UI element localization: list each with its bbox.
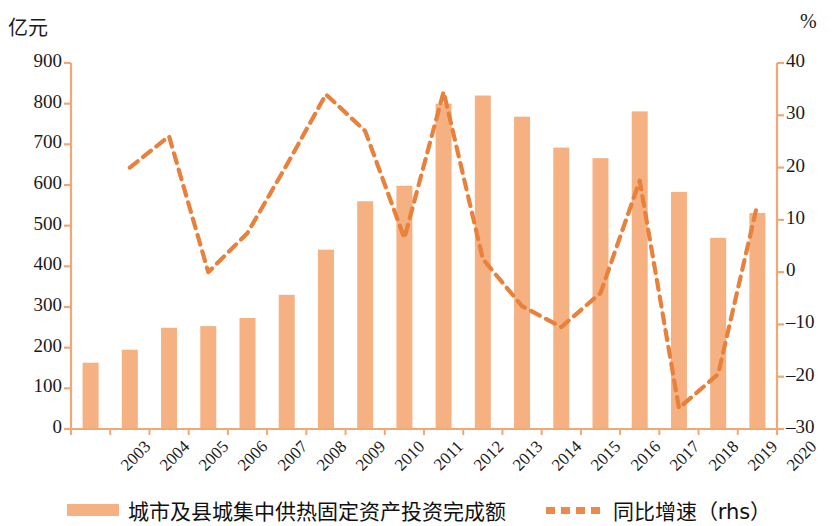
x-axis-label-2012: 2012	[470, 437, 508, 475]
right-axis-label-20: 20	[786, 155, 838, 177]
bar-2006	[200, 326, 216, 429]
x-axis-label-2017: 2017	[666, 437, 704, 475]
bar-2010	[357, 201, 373, 429]
x-axis-label-2013: 2013	[509, 437, 547, 475]
right-axis-label-10: 10	[786, 207, 838, 229]
legend-line-label: 同比增速（rhs）	[613, 495, 772, 525]
bar-2007	[240, 318, 256, 429]
x-axis-label-2014: 2014	[548, 437, 586, 475]
x-axis-label-2006: 2006	[234, 437, 272, 475]
right-axis-label--10: –10	[786, 311, 838, 333]
bar-2019	[710, 238, 726, 429]
left-axis-unit-label: 亿元	[8, 12, 48, 41]
left-axis-label-200: 200	[4, 335, 62, 357]
x-axis-label-2008: 2008	[313, 437, 351, 475]
left-axis-label-800: 800	[4, 91, 62, 113]
bar-2020	[749, 213, 765, 429]
right-axis-label--20: –20	[786, 364, 838, 386]
x-axis-label-2016: 2016	[626, 437, 664, 475]
plot-svg	[71, 63, 777, 429]
bar-2014	[514, 117, 530, 429]
right-axis-label-0: 0	[786, 259, 838, 281]
x-axis-label-2019: 2019	[744, 437, 782, 475]
left-axis-label-600: 600	[4, 172, 62, 194]
left-axis-label-400: 400	[4, 253, 62, 275]
bar-2003	[83, 363, 99, 429]
legend-bar-swatch-icon	[67, 504, 119, 516]
bar-2017	[632, 111, 648, 429]
left-axis-label-100: 100	[4, 375, 62, 397]
bar-2013	[475, 96, 491, 429]
bar-2009	[318, 250, 334, 429]
bar-2012	[436, 104, 452, 429]
x-axis-label-2020: 2020	[783, 437, 821, 475]
right-axis-label-30: 30	[786, 102, 838, 124]
bar-2005	[161, 328, 177, 429]
legend-bar-label: 城市及县城集中供热固定资产投资完成额	[128, 495, 506, 525]
x-axis-label-2003: 2003	[117, 437, 155, 475]
chart-figure: 亿元 % 0100200300400500600700800900 –30–20…	[0, 0, 838, 526]
left-axis-label-700: 700	[4, 131, 62, 153]
chart-legend: 城市及县城集中供热固定资产投资完成额 同比增速（rhs）	[0, 494, 838, 526]
left-axis-label-0: 0	[4, 416, 62, 438]
right-axis-unit-label: %	[800, 10, 817, 33]
x-axis-label-2004: 2004	[156, 437, 194, 475]
x-axis-label-2015: 2015	[587, 437, 625, 475]
x-axis-label-2009: 2009	[352, 437, 390, 475]
left-axis-label-300: 300	[4, 294, 62, 316]
bar-2008	[279, 295, 295, 429]
right-axis-label--30: –30	[786, 416, 838, 438]
right-axis-label-40: 40	[786, 50, 838, 72]
x-axis-label-2010: 2010	[391, 437, 429, 475]
bar-2004	[122, 350, 138, 429]
legend-entry-bar: 城市及县城集中供热固定资产投资完成额	[67, 495, 506, 525]
legend-dashed-line-swatch-icon	[546, 507, 604, 514]
x-axis-label-2018: 2018	[705, 437, 743, 475]
left-axis-label-500: 500	[4, 213, 62, 235]
x-axis-label-2007: 2007	[273, 437, 311, 475]
plot-area	[71, 63, 777, 429]
bar-2018	[671, 192, 687, 429]
x-axis-label-2005: 2005	[195, 437, 233, 475]
legend-entry-line: 同比增速（rhs）	[546, 495, 772, 525]
bar-2015	[553, 148, 569, 429]
bar-2011	[396, 186, 412, 429]
x-axis-label-2011: 2011	[430, 437, 468, 475]
left-axis-label-900: 900	[4, 50, 62, 72]
